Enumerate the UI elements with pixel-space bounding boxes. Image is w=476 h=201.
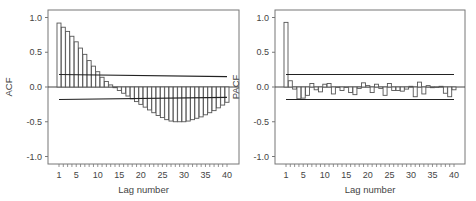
acf-bar bbox=[126, 87, 130, 96]
acf-bar bbox=[314, 87, 318, 90]
x-tick-label: 30 bbox=[179, 170, 189, 180]
x-tick-label: 20 bbox=[363, 170, 373, 180]
acf-bar bbox=[122, 87, 126, 93]
x-tick-label: 25 bbox=[384, 170, 394, 180]
acf-bar bbox=[203, 87, 207, 115]
acf-bar bbox=[104, 81, 108, 87]
y-tick-label: 0.0 bbox=[29, 82, 42, 92]
acf-bar bbox=[396, 87, 400, 90]
x-tick-label: 40 bbox=[449, 170, 459, 180]
acf-bar bbox=[301, 87, 305, 98]
acf-bar bbox=[297, 87, 301, 99]
acf-bar bbox=[318, 87, 322, 92]
acf-bar bbox=[323, 84, 327, 87]
acf-bar bbox=[400, 87, 404, 91]
y-tick-label: -0.5 bbox=[253, 117, 269, 127]
y-tick-label: 0.0 bbox=[256, 82, 269, 92]
acf-bar bbox=[392, 87, 396, 90]
acf-bar bbox=[405, 87, 409, 89]
acf-bar bbox=[448, 87, 452, 97]
acf-bar bbox=[156, 87, 160, 115]
acf-bar bbox=[186, 87, 190, 121]
y-axis-title: ACF bbox=[3, 77, 14, 96]
acf-bar bbox=[383, 87, 387, 95]
acf-bar bbox=[422, 87, 426, 94]
x-tick-label: 10 bbox=[93, 170, 103, 180]
acf-bar bbox=[74, 42, 78, 87]
acf-bar bbox=[70, 36, 74, 87]
pacf-panel: 1.00.50.0-0.5-1.01510152025303540Lag num… bbox=[230, 10, 465, 195]
x-tick-label: 1 bbox=[283, 170, 288, 180]
y-axis-title: PACF bbox=[230, 74, 241, 99]
x-tick-label: 5 bbox=[301, 170, 306, 180]
acf-bar bbox=[452, 87, 456, 90]
acf-bar bbox=[430, 87, 434, 88]
acf-pacf-figure: 1.00.50.0-0.5-1.01510152025303540Lag num… bbox=[0, 0, 476, 201]
acf-bar bbox=[306, 87, 310, 95]
acf-bar bbox=[353, 87, 357, 95]
acf-bar bbox=[100, 77, 104, 87]
acf-bar bbox=[370, 87, 374, 93]
acf-bar bbox=[199, 87, 203, 117]
acf-bar bbox=[413, 87, 417, 97]
acf-bar bbox=[79, 48, 83, 87]
acf-bar bbox=[61, 27, 65, 87]
acf-bar bbox=[310, 84, 314, 87]
acf-bar bbox=[387, 84, 391, 87]
x-tick-label: 15 bbox=[341, 170, 351, 180]
x-tick-label: 5 bbox=[74, 170, 79, 180]
acf-bar bbox=[160, 87, 164, 118]
acf-bar bbox=[208, 87, 212, 113]
acf-panel: 1.00.50.0-0.5-1.01510152025303540Lag num… bbox=[3, 10, 239, 195]
acf-bar bbox=[165, 87, 169, 120]
acf-bar bbox=[66, 31, 70, 87]
acf-bar bbox=[57, 23, 61, 87]
acf-bar bbox=[143, 87, 147, 107]
acf-bar bbox=[191, 87, 195, 120]
acf-bar bbox=[327, 84, 331, 87]
acf-bar bbox=[426, 86, 430, 87]
acf-bar bbox=[130, 87, 134, 99]
acf-bar bbox=[409, 86, 413, 87]
y-tick-label: -1.0 bbox=[26, 152, 42, 162]
acf-bar bbox=[349, 87, 353, 93]
acf-bar bbox=[109, 85, 113, 87]
y-tick-label: 0.5 bbox=[29, 47, 42, 57]
acf-bar bbox=[152, 87, 156, 113]
acf-bar bbox=[331, 87, 335, 94]
x-tick-label: 15 bbox=[114, 170, 124, 180]
acf-bar bbox=[293, 87, 297, 89]
acf-bar bbox=[113, 87, 117, 88]
x-tick-label: 25 bbox=[157, 170, 167, 180]
x-axis-title: Lag number bbox=[118, 184, 169, 195]
acf-bar bbox=[182, 87, 186, 122]
y-tick-label: 1.0 bbox=[256, 13, 269, 23]
x-axis-title: Lag number bbox=[345, 184, 396, 195]
acf-bar bbox=[221, 87, 225, 105]
x-tick-label: 10 bbox=[320, 170, 330, 180]
acf-bar bbox=[169, 87, 173, 121]
acf-bar bbox=[357, 87, 361, 88]
y-tick-label: 0.5 bbox=[256, 47, 269, 57]
acf-bar bbox=[195, 87, 199, 118]
acf-bar bbox=[284, 22, 288, 87]
acf-bar bbox=[212, 87, 216, 111]
acf-bar bbox=[435, 87, 439, 88]
acf-bar bbox=[439, 86, 443, 87]
acf-bar bbox=[117, 87, 121, 90]
acf-bar bbox=[366, 86, 370, 87]
acf-bar bbox=[362, 83, 366, 87]
acf-bar bbox=[336, 87, 340, 88]
acf-bar bbox=[443, 87, 447, 93]
acf-bar bbox=[96, 72, 100, 87]
acf-bar bbox=[225, 87, 229, 102]
acf-bar bbox=[173, 87, 177, 122]
x-tick-label: 1 bbox=[56, 170, 61, 180]
acf-bar bbox=[379, 87, 383, 88]
acf-bar bbox=[344, 87, 348, 88]
acf-bar bbox=[87, 61, 91, 87]
x-tick-label: 40 bbox=[222, 170, 232, 180]
x-tick-label: 30 bbox=[406, 170, 416, 180]
y-tick-label: 1.0 bbox=[29, 13, 42, 23]
acf-bar bbox=[374, 84, 378, 87]
